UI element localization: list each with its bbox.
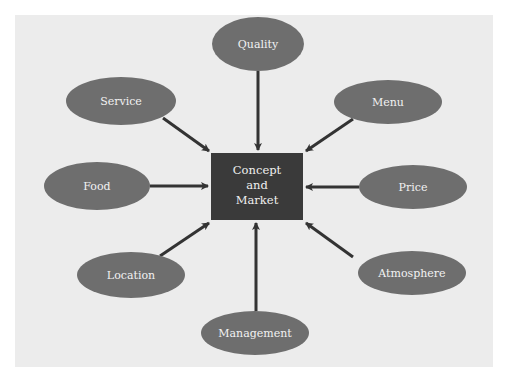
center-line-2: and	[246, 178, 268, 192]
arrow-location	[160, 223, 209, 256]
node-price: Price	[359, 165, 467, 209]
center-line-1: Concept	[233, 163, 282, 177]
node-label-price: Price	[399, 181, 428, 194]
node-menu: Menu	[334, 80, 442, 124]
node-location: Location	[77, 252, 185, 298]
center-node: Concept and Market	[211, 153, 303, 220]
node-atmosphere: Atmosphere	[358, 251, 466, 295]
node-food: Food	[44, 162, 150, 210]
node-label-atmosphere: Atmosphere	[377, 267, 445, 280]
node-quality: Quality	[212, 17, 304, 71]
node-label-menu: Menu	[372, 96, 404, 109]
arrow-atmosphere	[306, 223, 353, 257]
node-service: Service	[66, 77, 176, 125]
center-line-3: Market	[236, 193, 279, 207]
concept-diagram: Concept and Market Quality Service Menu …	[0, 0, 505, 382]
node-label-quality: Quality	[238, 38, 279, 51]
node-label-food: Food	[83, 180, 110, 193]
node-management: Management	[201, 311, 309, 355]
arrow-menu	[306, 119, 353, 151]
arrow-service	[163, 118, 209, 151]
node-label-location: Location	[107, 269, 155, 282]
node-label-service: Service	[100, 95, 142, 108]
node-label-management: Management	[218, 327, 292, 340]
